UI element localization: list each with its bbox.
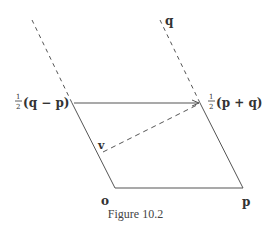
svg-text:1: 1 bbox=[16, 93, 20, 101]
label-half-q-minus-p: 1 2 (q − p) bbox=[15, 93, 70, 111]
figure-caption: Figure 10.2 bbox=[0, 207, 271, 222]
svg-text:(p + q): (p + q) bbox=[216, 96, 263, 110]
left-dashed-extension bbox=[32, 20, 72, 103]
svg-text:2: 2 bbox=[16, 103, 20, 111]
label-o: o bbox=[101, 194, 109, 208]
label-q: q bbox=[165, 14, 174, 28]
svg-text:(q − p): (q − p) bbox=[23, 96, 70, 110]
label-v: v bbox=[97, 139, 105, 152]
svg-text:1: 1 bbox=[209, 93, 213, 101]
side-right-p-to-half-p-plus-q bbox=[200, 103, 243, 188]
side-left-o-to-half-q-minus-p bbox=[72, 103, 115, 188]
right-dashed-extension-to-q bbox=[160, 20, 200, 103]
parallelogram-figure: q v o p 1 2 (q − p) 1 2 (p + q) Figure 1… bbox=[0, 0, 271, 230]
label-half-p-plus-q: 1 2 (p + q) bbox=[208, 93, 263, 111]
svg-text:2: 2 bbox=[209, 103, 213, 111]
dashed-v-to-half-p-plus-q bbox=[103, 104, 199, 152]
diagram-canvas: q v o p 1 2 (q − p) 1 2 (p + q) bbox=[0, 0, 271, 230]
